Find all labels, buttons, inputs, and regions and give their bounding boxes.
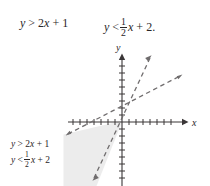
corner-inequality-first: y > 2x + 1 bbox=[11, 140, 50, 150]
inequality-lhs-variable: y bbox=[20, 16, 25, 30]
inequality-lhs-variable: y bbox=[11, 139, 15, 149]
inequality-rhs-variable: x bbox=[44, 16, 49, 30]
boundary-line-shallow bbox=[68, 76, 180, 134]
fraction-one-half: 12 bbox=[120, 17, 127, 39]
boundary-line-shallow-arrowhead-right bbox=[177, 74, 183, 79]
x-axis-arrowhead bbox=[182, 119, 189, 125]
fraction-one-half: 12 bbox=[24, 151, 30, 168]
inequality-sign: + bbox=[37, 139, 42, 149]
trailing-period: . bbox=[152, 20, 155, 34]
shaded-solution-region bbox=[64, 121, 123, 186]
x-axis-label: x bbox=[191, 117, 197, 128]
inequality-relation: > bbox=[28, 16, 35, 30]
inequality-rhs-variable: x bbox=[31, 154, 35, 164]
figure-container: y > 2x + 1 y <12x + 2. bbox=[0, 0, 210, 186]
inequality-rhs-variable: x bbox=[30, 139, 34, 149]
corner-inequality-labels: y > 2x + 1 y <12x + 2 bbox=[11, 140, 50, 171]
inequality-rhs-variable: x bbox=[128, 20, 133, 34]
fraction-denominator: 2 bbox=[24, 160, 30, 168]
inequality-sign: + bbox=[136, 20, 143, 34]
fraction-numerator: 1 bbox=[120, 17, 127, 27]
inequality-relation: < bbox=[112, 20, 119, 34]
inequality-constant: 1 bbox=[62, 16, 68, 30]
y-axis-label: y bbox=[115, 44, 121, 53]
top-inequality-second: y <12x + 2. bbox=[104, 17, 155, 39]
boundary-line-steep-arrowhead-top bbox=[145, 55, 151, 61]
y-axis-arrowhead bbox=[119, 54, 125, 61]
inequality-relation: < bbox=[18, 154, 23, 164]
inequality-relation: > bbox=[18, 139, 23, 149]
top-inequality-first: y > 2x + 1 bbox=[20, 17, 68, 29]
corner-inequality-second: y <12x + 2 bbox=[11, 152, 50, 169]
inequality-sign: + bbox=[38, 154, 43, 164]
inequality-constant: 1 bbox=[44, 139, 49, 149]
inequality-sign: + bbox=[52, 16, 59, 30]
fraction-numerator: 1 bbox=[24, 151, 30, 159]
inequality-constant: 2 bbox=[45, 154, 50, 164]
inequality-lhs-variable: y bbox=[104, 20, 109, 34]
inequality-lhs-variable: y bbox=[11, 154, 15, 164]
fraction-denominator: 2 bbox=[120, 28, 127, 38]
